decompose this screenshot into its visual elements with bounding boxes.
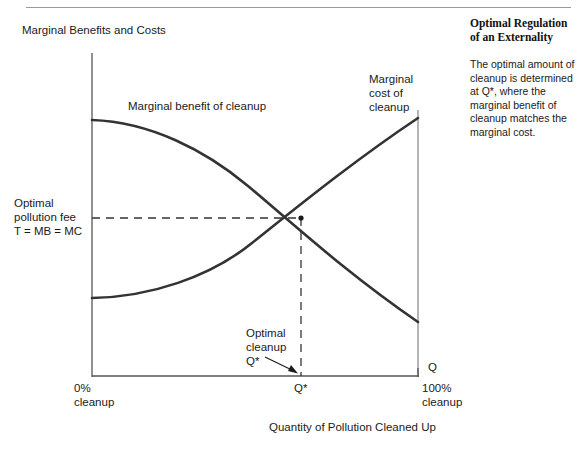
optimal-cleanup-arrowhead (288, 365, 298, 374)
x-axis-origin-label: 0% cleanup (74, 381, 114, 409)
equilibrium-point-marker (298, 215, 303, 220)
optimal-pollution-fee-label: Optimal pollution fee T = MB = MC (14, 196, 82, 238)
sidebar-title: Optimal Regulation of an Externality (470, 16, 578, 44)
figure-page: Marginal Benefits and Costs Mar (0, 0, 581, 449)
x-axis-variable-label: Q (428, 360, 437, 374)
sidebar-panel: Optimal Regulation of an Externality The… (470, 0, 581, 449)
figure-panel: Marginal Benefits and Costs Mar (0, 0, 470, 449)
marginal-benefit-label: Marginal benefit of cleanup (128, 99, 266, 113)
x-axis-qstar-label: Q* (294, 381, 307, 395)
x-axis-title: Quantity of Pollution Cleaned Up (269, 421, 436, 433)
marginal-cost-curve (92, 118, 418, 298)
x-axis-max-label: 100% cleanup (422, 381, 462, 409)
marginal-cost-label: Marginal cost of cleanup (369, 72, 413, 114)
optimal-cleanup-label: Optimal cleanup Q* (246, 326, 286, 368)
sidebar-body-text: The optimal amount of cleanup is determi… (470, 58, 576, 140)
